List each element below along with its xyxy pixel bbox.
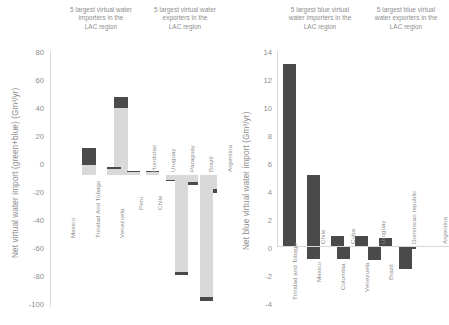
cat-label-r-cuba: Cuba	[349, 229, 356, 244]
cat-label-r-chile: Chile	[319, 230, 326, 244]
cat-label-r-trinidad: Trinidad and Tobago	[291, 243, 298, 300]
cat-label-r-colombia: Colombia	[339, 263, 346, 290]
cat-label-r-argentina: Argentina	[441, 217, 448, 244]
cat-label-r-venezuela: Venezuela	[363, 263, 370, 292]
right-plot-negative-bars	[0, 0, 449, 325]
figure-root: 5 largest virtual water importers in the…	[0, 0, 449, 325]
cat-label-r-mexico: Mexico	[315, 262, 322, 282]
bar-r-dominican[interactable]	[368, 247, 381, 260]
bar-r-argentina[interactable]	[399, 247, 412, 269]
cat-label-r-dominican: Dominican republic	[410, 190, 417, 244]
cat-label-r-uruguay: Uruguay	[379, 220, 386, 244]
bar-r-cuba[interactable]	[307, 247, 320, 259]
bar-r-uruguay[interactable]	[337, 247, 350, 259]
cat-label-r-brazil: Brazil	[387, 264, 394, 280]
